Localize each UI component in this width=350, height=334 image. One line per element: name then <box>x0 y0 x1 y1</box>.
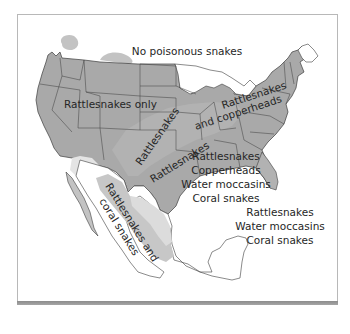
label-me-coral-snakes: Coral snakes <box>247 234 314 246</box>
label-se-coral-snakes: Coral snakes <box>193 192 260 204</box>
snake-distribution-map: No poisonous snakes Rattlesnakes only Ra… <box>0 0 350 334</box>
label-me-water-moccasins: Water moccasins <box>235 220 325 232</box>
label-se-rattlesnakes: Rattlesnakes <box>192 150 259 162</box>
label-me-rattlesnakes: Rattlesnakes <box>246 206 313 218</box>
label-se-copperheads: Copperheads <box>191 164 260 176</box>
label-mexico-east-list: Rattlesnakes Water moccasins Coral snake… <box>235 206 325 246</box>
label-se-water-moccasins: Water moccasins <box>181 178 271 190</box>
region-north-blob-west <box>61 35 78 50</box>
label-rattlesnakes-only: Rattlesnakes only <box>64 98 157 110</box>
label-no-poisonous-snakes: No poisonous snakes <box>132 45 242 57</box>
